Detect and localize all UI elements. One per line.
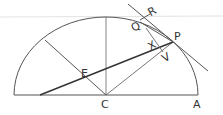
label-v: V [160,50,173,65]
label-x: X [146,38,159,53]
label-e: E [81,67,88,80]
label-a: A [193,98,201,111]
label-c: C [101,98,109,111]
label-p: P [174,30,181,43]
label-q: Q [129,19,143,35]
chord-qp [140,22,173,42]
radius-cp [106,42,173,95]
radius-upper-left [45,40,106,95]
geometry-diagram: C A E P Q R X V [0,0,223,115]
